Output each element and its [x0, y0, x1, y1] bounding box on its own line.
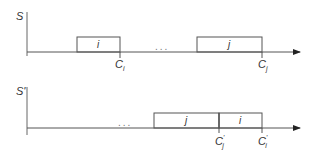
sp-axis-label: S' [16, 85, 26, 97]
schedule-s: S i Ci ... j Cj [16, 10, 300, 73]
cj-prime-label: C'j [215, 134, 225, 150]
job-j-label-prime: j [183, 115, 188, 126]
schedule-diagram: S i Ci ... j Cj S' ... j C'j i C'i [0, 0, 314, 157]
sp-ellipsis: ... [118, 117, 132, 128]
s-axis-label: S [16, 10, 24, 22]
job-i-label: i [97, 39, 100, 50]
ci-label: Ci [115, 58, 125, 72]
job-j-label: j [226, 39, 231, 50]
job-i-label-prime: i [239, 115, 242, 126]
cj-label: Cj [258, 58, 268, 73]
schedule-s-prime: S' ... j C'j i C'i [16, 85, 300, 150]
s-ellipsis: ... [155, 41, 169, 52]
ci-prime-label: C'i [258, 134, 268, 149]
